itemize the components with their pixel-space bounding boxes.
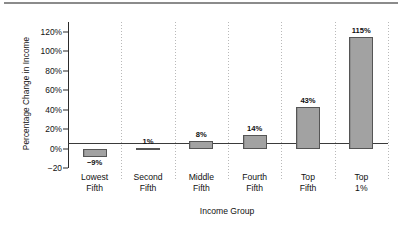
category-label-line: Lowest <box>65 172 125 183</box>
category-label-line: Top <box>331 172 391 183</box>
y-tick-mark <box>63 168 68 169</box>
category-label: FourthFifth <box>225 172 285 194</box>
bar-chart-figure: Percentage Change in Income 120%100%80%6… <box>0 0 403 227</box>
plot-area: 120%100%80%60%40%20%0%−20 −9%1%8%14%43%1… <box>68 22 388 168</box>
bar <box>349 37 373 149</box>
gridline-vertical <box>175 22 176 180</box>
category-label: MiddleFifth <box>171 172 231 194</box>
y-tick-mark <box>63 109 68 110</box>
gridline-vertical <box>281 22 282 180</box>
bar <box>189 141 213 149</box>
category-label-line: Fifth <box>118 183 178 194</box>
category-label: Top1% <box>331 172 391 194</box>
y-tick-mark <box>63 129 68 130</box>
category-label-line: Fifth <box>225 183 285 194</box>
category-label-line: Fifth <box>171 183 231 194</box>
x-axis-title: Income Group <box>67 206 387 216</box>
gridline-vertical <box>121 22 122 180</box>
category-label-line: Fourth <box>225 172 285 183</box>
bar <box>83 149 107 158</box>
y-tick-mark <box>63 51 68 52</box>
gridline-vertical <box>388 22 389 180</box>
bar-value-label: 1% <box>128 137 168 146</box>
y-tick-mark <box>63 31 68 32</box>
category-label-line: Fifth <box>278 183 338 194</box>
gridline-vertical <box>335 22 336 180</box>
bar <box>243 135 267 149</box>
y-tick-mark <box>63 70 68 71</box>
bar-value-label: 14% <box>235 124 275 133</box>
category-label-line: Fifth <box>65 183 125 194</box>
top-divider-rule <box>4 2 398 4</box>
y-axis-title: Percentage Change in Income <box>22 19 31 169</box>
category-label: LowestFifth <box>65 172 125 194</box>
category-label-line: Middle <box>171 172 231 183</box>
bar <box>136 148 160 150</box>
gridline-vertical <box>228 22 229 180</box>
category-label: SecondFifth <box>118 172 178 194</box>
bar-value-label: 8% <box>181 130 221 139</box>
bar-value-label: 115% <box>341 26 381 35</box>
bar <box>296 107 320 149</box>
category-label-line: Second <box>118 172 178 183</box>
y-tick-mark <box>63 90 68 91</box>
category-label: TopFifth <box>278 172 338 194</box>
category-label-line: Top <box>278 172 338 183</box>
category-label-line: 1% <box>331 183 391 194</box>
y-tick-mark <box>63 148 68 149</box>
bar-value-label: −9% <box>75 158 115 167</box>
bar-value-label: 43% <box>288 96 328 105</box>
